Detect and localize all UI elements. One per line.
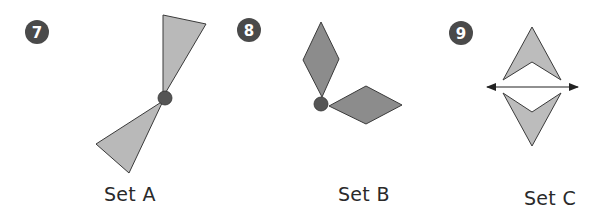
label-set-c: Set C <box>524 187 576 209</box>
badge-number: 9 <box>456 25 466 43</box>
figure-canvas: 7 8 9 <box>0 0 613 224</box>
badge-7: 7 <box>25 20 49 44</box>
upper-rhombus <box>303 22 339 97</box>
lower-arrowhead <box>503 93 561 146</box>
badge-number: 7 <box>32 24 42 42</box>
problem-8: 8 <box>237 18 402 124</box>
pivot-point-icon <box>314 97 328 111</box>
problem-9: 9 <box>449 21 578 146</box>
badge-9: 9 <box>449 21 473 45</box>
pivot-point-icon <box>158 91 172 105</box>
upper-triangle <box>163 15 206 97</box>
label-set-b: Set B <box>338 183 390 205</box>
badge-8: 8 <box>237 18 261 42</box>
label-set-a: Set A <box>104 183 156 205</box>
right-rhombus <box>329 86 402 124</box>
problem-7: 7 <box>25 15 206 173</box>
upper-arrowhead <box>503 27 561 80</box>
lower-triangle <box>96 101 163 173</box>
badge-number: 8 <box>244 22 254 40</box>
